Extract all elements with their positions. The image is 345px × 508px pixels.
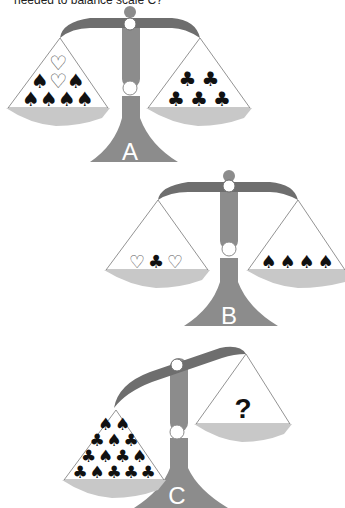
heart-icon: ♡ <box>167 251 183 272</box>
club-icon: ♣ <box>106 462 121 482</box>
balance-scales-figure: ♡♠♡♠♠♠♠♠ ♣♣♣♣♣ A ♡♣♡ ♠♠♠♠ B ♠♠♣♠♣♣♠♣♠♣♠♣… <box>0 0 345 508</box>
club-icon: ♣ <box>72 462 87 482</box>
scale-b: ♡♣♡ ♠♠♠♠ B <box>104 170 345 329</box>
scale-a-mid-pivot <box>123 81 137 95</box>
scale-c-left-pan <box>62 480 166 498</box>
club-icon: ♣ <box>148 251 164 272</box>
spade-icon: ♠ <box>260 251 276 272</box>
scale-c-mid-pivot <box>170 425 184 439</box>
scale-c-left-contents: ♠♠♣♠♣♣♠♣♠♣♠♣♣♣ <box>72 414 155 482</box>
spade-icon: ♠ <box>317 251 333 272</box>
club-icon: ♣ <box>140 462 155 482</box>
heart-icon: ♡ <box>129 251 145 272</box>
spade-icon: ♠ <box>76 87 94 111</box>
scale-c-label: C <box>168 482 185 508</box>
scale-b-right-pan <box>246 270 345 288</box>
scale-c-top-pivot <box>171 359 183 371</box>
scale-a-left-contents: ♡♠♡♠♠♠♠♠ <box>22 51 94 111</box>
scale-c-right-pan <box>194 424 292 442</box>
spade-icon: ♠ <box>89 462 104 482</box>
club-icon: ♣ <box>213 87 231 111</box>
scale-b-left-pan <box>104 270 210 288</box>
spade-icon: ♠ <box>58 87 76 111</box>
scale-b-mid-pivot <box>222 242 236 256</box>
scale-b-label: B <box>221 302 237 329</box>
scale-a-top-pivot <box>124 18 136 30</box>
spade-icon: ♠ <box>40 87 58 111</box>
scale-b-left-contents: ♡♣♡ <box>129 251 183 272</box>
scale-b-top-pivot <box>223 180 235 192</box>
spade-icon: ♠ <box>279 251 295 272</box>
club-icon: ♣ <box>167 87 185 111</box>
scale-c: ♠♠♣♠♣♣♠♣♠♣♠♣♣♣ ? C <box>62 347 292 508</box>
scale-c-unknown-mark: ? <box>234 393 251 424</box>
spade-icon: ♠ <box>22 87 40 111</box>
scale-a: ♡♠♡♠♠♠♠♠ ♣♣♣♣♣ A <box>6 6 252 165</box>
spade-icon: ♠ <box>298 251 314 272</box>
club-icon: ♣ <box>123 462 138 482</box>
club-icon: ♣ <box>190 87 208 111</box>
scale-a-label: A <box>122 138 138 165</box>
